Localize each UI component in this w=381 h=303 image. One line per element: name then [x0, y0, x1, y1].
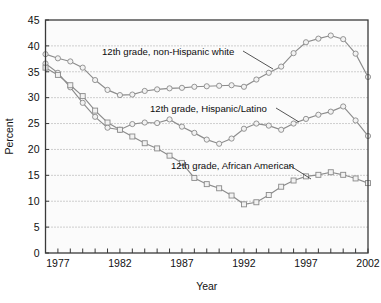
data-point-marker [229, 83, 234, 88]
series-annotation-label: 12th grade, Hispanic/Latino [150, 103, 267, 114]
data-point-marker [105, 125, 110, 130]
data-point-marker [80, 94, 85, 99]
data-point-marker [130, 134, 135, 139]
y-tick-label: 35 [28, 66, 40, 78]
data-point-marker [204, 182, 209, 187]
data-point-marker [254, 77, 259, 82]
x-tick-label: 1992 [232, 257, 256, 269]
y-axis-title: Percent [3, 118, 15, 154]
data-point-marker [341, 37, 346, 42]
data-point-marker [204, 137, 209, 142]
data-point-marker [142, 120, 147, 125]
data-point-marker [254, 121, 259, 126]
x-tick-label: 1997 [294, 257, 318, 269]
y-tick-label: 30 [28, 91, 40, 103]
data-point-marker [130, 92, 135, 97]
series-annotation-label: 12th grade, non-Hispanic white [102, 46, 234, 57]
x-axis-title: Year [196, 280, 218, 292]
data-point-marker [68, 59, 73, 64]
data-point-marker [291, 178, 296, 183]
data-point-marker [303, 116, 308, 121]
data-point-marker [316, 172, 321, 177]
y-tick-label: 45 [28, 14, 40, 26]
line-chart: 051015202530354045 197719821987199219972… [0, 0, 381, 303]
y-tick-label: 20 [28, 143, 40, 155]
x-tick-label: 1987 [170, 257, 194, 269]
data-point-marker [167, 153, 172, 158]
data-point-marker [55, 56, 60, 61]
y-tick-label: 40 [28, 40, 40, 52]
data-point-marker [279, 64, 284, 69]
data-point-marker [328, 170, 333, 175]
series-annotation-label: 12th grade, African American [171, 160, 294, 171]
data-point-marker [179, 124, 184, 129]
data-point-marker [328, 33, 333, 38]
y-tick-label: 10 [28, 195, 40, 207]
data-point-marker [291, 51, 296, 56]
data-point-marker [341, 104, 346, 109]
data-point-marker [291, 121, 296, 126]
data-point-marker [93, 108, 98, 113]
data-point-marker [241, 84, 246, 89]
data-point-marker [105, 87, 110, 92]
data-point-marker [68, 83, 73, 88]
data-point-marker [217, 141, 222, 146]
data-point-marker [117, 127, 122, 132]
y-tick-label: 5 [34, 221, 40, 233]
data-point-marker [93, 114, 98, 119]
data-point-marker [241, 126, 246, 131]
data-point-marker [303, 40, 308, 45]
data-point-marker [341, 172, 346, 177]
data-point-marker [353, 118, 358, 123]
data-point-marker [266, 70, 271, 75]
data-point-marker [142, 88, 147, 93]
data-point-marker [179, 85, 184, 90]
data-point-marker [266, 193, 271, 198]
data-point-marker [192, 84, 197, 89]
data-point-marker [266, 123, 271, 128]
x-tick-label: 1982 [108, 257, 132, 269]
data-point-marker [328, 109, 333, 114]
data-point-marker [316, 112, 321, 117]
data-point-marker [353, 176, 358, 181]
data-point-marker [155, 120, 160, 125]
data-point-marker [130, 121, 135, 126]
data-point-marker [353, 51, 358, 56]
data-point-marker [167, 86, 172, 91]
data-point-marker [192, 175, 197, 180]
data-point-marker [229, 136, 234, 141]
data-point-marker [217, 186, 222, 191]
data-point-marker [105, 120, 110, 125]
data-point-marker [254, 200, 259, 205]
data-point-marker [316, 36, 321, 41]
data-point-marker [155, 146, 160, 151]
data-point-marker [192, 130, 197, 135]
data-point-marker [241, 202, 246, 207]
data-point-marker [93, 77, 98, 82]
data-point-marker [55, 72, 60, 77]
data-point-marker [80, 65, 85, 70]
data-point-marker [279, 127, 284, 132]
data-point-marker [80, 100, 85, 105]
data-point-marker [217, 83, 222, 88]
data-point-marker [142, 141, 147, 146]
y-tick-label: 15 [28, 169, 40, 181]
data-point-marker [117, 92, 122, 97]
x-tick-label: 1977 [46, 257, 70, 269]
y-tick-label: 25 [28, 117, 40, 129]
chart-container: 051015202530354045 197719821987199219972… [0, 0, 381, 303]
data-point-marker [229, 193, 234, 198]
data-point-marker [279, 184, 284, 189]
x-tick-label: 2002 [356, 257, 380, 269]
data-point-marker [204, 84, 209, 89]
data-point-marker [155, 87, 160, 92]
y-tick-label: 0 [34, 247, 40, 259]
data-point-marker [167, 117, 172, 122]
